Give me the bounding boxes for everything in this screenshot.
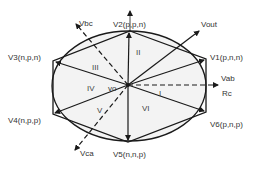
label-rc: Rc <box>222 89 232 98</box>
label-vout: Vout <box>201 20 218 29</box>
label-v1: V1(p,n,n) <box>210 53 243 62</box>
label-v5: V5(n,n,p) <box>113 150 146 159</box>
label-v2: V2(p,p,n) <box>113 20 146 29</box>
sector-vi: VI <box>142 104 150 113</box>
sector-iii: III <box>92 63 99 72</box>
label-v6: V6(p,n,p) <box>210 120 243 129</box>
sector-v: V <box>97 106 103 115</box>
label-vab: Vab <box>221 74 235 83</box>
sector-ii: II <box>136 48 140 57</box>
sector-i: I <box>159 89 161 98</box>
label-v3: V3(n,p,n) <box>8 53 41 62</box>
space-vector-diagram: V2(p,p,n) V1(p,n,n) V3(n,p,n) V4(n,p,p) … <box>0 0 254 171</box>
origin-point <box>126 83 130 87</box>
label-vbc: Vbc <box>79 19 93 28</box>
label-v4: V4(n,p,p) <box>8 116 41 125</box>
sector-iv: IV <box>87 84 95 93</box>
label-vca: Vca <box>80 149 94 158</box>
label-origin: vo <box>108 84 117 93</box>
